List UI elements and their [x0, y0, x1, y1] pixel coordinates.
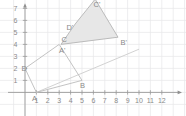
vertex-label-C: C [61, 35, 67, 44]
y-tick-label-7: 7 [14, 5, 18, 12]
x-tick-label-11: 11 [147, 97, 154, 104]
x-tick-label-6: 6 [91, 97, 95, 104]
y-tick-label-2: 2 [14, 65, 18, 72]
vertex-label-C-prime: C' [94, 0, 101, 9]
vertex-label-B-prime: B' [121, 38, 128, 47]
x-tick-label-5: 5 [80, 97, 84, 104]
vertex-label-A: A [32, 94, 37, 103]
y-tick-label-6: 6 [14, 17, 18, 24]
x-tick-label-9: 9 [126, 97, 130, 104]
x-tick-label-10: 10 [135, 97, 143, 104]
diagram-canvas: 1 2 3 4 5 6 7 8 9 10 11 12 1 2 3 4 5 6 7… [0, 0, 186, 116]
y-tick-label-1: 1 [14, 77, 18, 84]
x-tick-label-8: 8 [114, 97, 118, 104]
x-tick-label-3: 3 [57, 97, 61, 104]
y-tick-label-4: 4 [14, 41, 18, 48]
y-tick-label-5: 5 [14, 29, 18, 36]
x-tick-label-7: 7 [103, 97, 107, 104]
coordinate-plane-diagram: 1 2 3 4 5 6 7 8 9 10 11 12 1 2 3 4 5 6 7… [0, 0, 186, 116]
x-tick-label-12: 12 [158, 97, 166, 104]
y-tick-label-3: 3 [14, 53, 18, 60]
vertex-label-A-prime: A' [59, 46, 66, 55]
vertex-label-B: B [80, 81, 85, 90]
x-tick-label-2: 2 [46, 97, 50, 104]
vertex-label-D-prime: D' [66, 23, 73, 32]
x-tick-label-4: 4 [69, 97, 73, 104]
vertex-label-D: D [22, 64, 28, 73]
